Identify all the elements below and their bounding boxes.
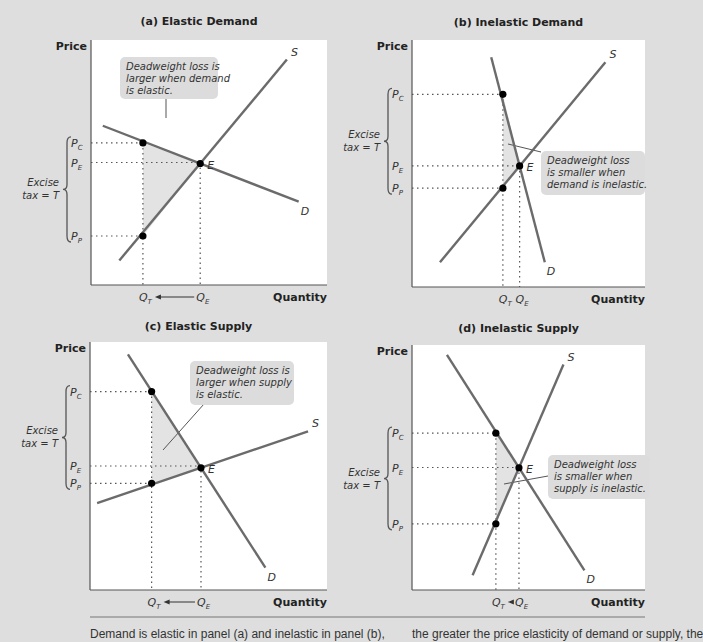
caption-divider bbox=[0, 0, 667, 642]
